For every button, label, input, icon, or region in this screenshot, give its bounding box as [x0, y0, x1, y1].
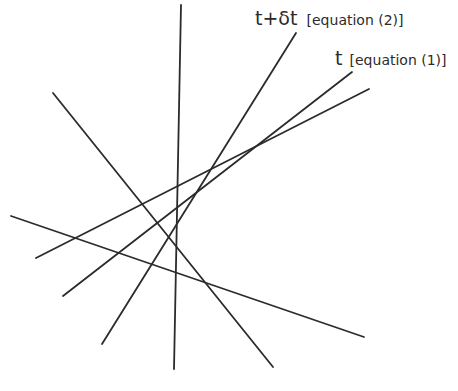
label-t-symbol: t	[335, 47, 342, 69]
diagonal-down-line	[53, 93, 273, 367]
label-t-plus-dt-annotation: [equation (2)]	[307, 12, 404, 28]
label-t-plus-dt: t+δt [equation (2)]	[255, 7, 404, 29]
label-t: t [equation (1)]	[335, 47, 447, 69]
line-diagram: t+δt [equation (2)] t [equation (1)]	[0, 0, 458, 391]
shallow-down-line	[11, 216, 364, 337]
label-t-annotation: [equation (1)]	[350, 52, 447, 68]
line-t	[63, 72, 352, 296]
label-t-plus-dt-symbol: t+δt	[255, 7, 297, 29]
third-rising-line	[36, 89, 369, 258]
line-t-plus-dt	[102, 33, 296, 344]
